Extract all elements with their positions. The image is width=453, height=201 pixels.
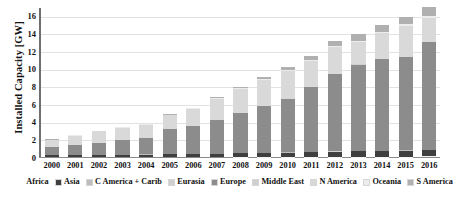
legend-label: Europe <box>220 177 246 187</box>
x-axis-tick-label: 2016 <box>417 160 441 171</box>
bar-column[interactable] <box>139 124 153 158</box>
legend-swatch <box>363 179 370 186</box>
bar-column[interactable] <box>92 131 106 157</box>
bar-segment <box>257 106 271 153</box>
x-axis-tick-label: 2003 <box>111 160 135 171</box>
bar-segment <box>115 128 129 140</box>
x-axis-tick-label: 2004 <box>134 160 158 171</box>
bar-segment <box>115 140 129 155</box>
legend-label: S America <box>417 177 453 187</box>
bar-segment <box>304 87 318 152</box>
bar-column[interactable] <box>68 135 82 157</box>
legend-item[interactable]: N America <box>310 177 357 187</box>
bar-segment <box>328 74 342 152</box>
x-axis-tick-label: 2013 <box>347 160 371 171</box>
y-axis-tick-label: 10 <box>12 65 36 74</box>
bar-segment <box>68 155 82 157</box>
bar-segment <box>210 99 224 120</box>
bar-segment <box>328 47 342 74</box>
legend-item[interactable]: S America <box>407 177 453 187</box>
bar-segment <box>375 59 389 151</box>
x-axis-tick-label: 2000 <box>40 160 64 171</box>
bar-segment <box>399 26 413 56</box>
bar-column[interactable] <box>257 77 271 157</box>
bar-segment <box>233 113 247 153</box>
legend-swatch <box>168 179 175 186</box>
bar-segment <box>68 145 82 155</box>
y-axis-tick-label: 4 <box>12 118 36 127</box>
x-axis-tick-label: 2002 <box>87 160 111 171</box>
bar-segment <box>186 154 200 157</box>
x-axis-tick-labels: 2000200120022003200420052006200720082009… <box>39 160 440 171</box>
bar-column[interactable] <box>399 17 413 157</box>
bar-column[interactable] <box>115 127 129 157</box>
bar-segment <box>92 131 106 142</box>
legend-label: Oceania <box>372 177 401 187</box>
legend-label: Middle East <box>261 177 304 187</box>
legend-label: C America + Carib <box>95 177 162 187</box>
x-axis-tick-label: 2014 <box>370 160 394 171</box>
bar-segment <box>68 136 82 146</box>
y-axis-tick-label: 0 <box>12 154 36 163</box>
bar-segment <box>45 140 59 147</box>
x-axis-tick-label: 2001 <box>64 160 88 171</box>
y-axis-tick-label: 14 <box>12 30 36 39</box>
bar-segment <box>210 154 224 157</box>
y-axis-tick-label: 8 <box>12 83 36 92</box>
legend-item[interactable]: Eurasia <box>168 177 205 187</box>
bar-segment <box>422 42 436 150</box>
chart-legend: AfricaAsiaC America + CaribEurasiaEurope… <box>39 176 440 188</box>
x-axis-tick-label: 2012 <box>323 160 347 171</box>
legend-swatch <box>252 179 259 186</box>
bar-column[interactable] <box>210 97 224 157</box>
bar-segment <box>139 138 153 154</box>
bar-column[interactable] <box>45 139 59 157</box>
x-axis-tick-label: 2006 <box>182 160 206 171</box>
y-axis-tick-label: 2 <box>12 136 36 145</box>
legend-label: Asia <box>64 177 79 187</box>
bar-segment <box>115 155 129 157</box>
legend-swatch <box>407 179 414 186</box>
x-axis-tick-label: 2015 <box>394 160 418 171</box>
bar-column[interactable] <box>328 41 342 157</box>
bar-column[interactable] <box>281 67 295 157</box>
y-axis-tick-label: 12 <box>12 48 36 57</box>
bar-segment <box>92 155 106 157</box>
bar-column[interactable] <box>422 7 436 157</box>
x-axis-tick-label: 2007 <box>205 160 229 171</box>
bar-segment <box>92 143 106 155</box>
x-axis-tick-label: 2009 <box>252 160 276 171</box>
legend-swatch <box>55 179 62 186</box>
bar-segment <box>304 61 318 87</box>
bar-column[interactable] <box>163 114 177 157</box>
bar-column[interactable] <box>351 34 365 157</box>
bar-segment <box>399 17 413 25</box>
legend-label: Africa <box>26 177 48 187</box>
legend-item[interactable]: Europe <box>211 177 246 187</box>
bar-column[interactable] <box>375 25 389 157</box>
bar-segment <box>399 57 413 150</box>
bar-segment <box>163 115 177 129</box>
bar-segment <box>139 155 153 157</box>
bar-segment <box>281 99 295 152</box>
bar-segment <box>210 120 224 154</box>
bar-column[interactable] <box>186 108 200 157</box>
plot-area: 0246810121416 <box>39 8 440 158</box>
bar-segment <box>351 42 365 65</box>
bar-segment <box>375 25 389 32</box>
bar-segment <box>186 126 200 154</box>
legend-label: Eurasia <box>177 177 204 187</box>
legend-item[interactable]: Oceania <box>363 177 401 187</box>
bar-column[interactable] <box>233 87 247 157</box>
legend-item[interactable]: Middle East <box>252 177 304 187</box>
legend-item[interactable]: Africa <box>26 177 48 187</box>
bar-segment <box>422 156 436 157</box>
legend-item[interactable]: Asia <box>55 177 80 187</box>
bar-segment <box>45 155 59 157</box>
bar-column[interactable] <box>304 56 318 157</box>
legend-item[interactable]: C America + Carib <box>86 177 162 187</box>
bar-segment <box>375 33 389 59</box>
legend-swatch <box>310 179 317 186</box>
legend-swatch <box>211 179 218 186</box>
